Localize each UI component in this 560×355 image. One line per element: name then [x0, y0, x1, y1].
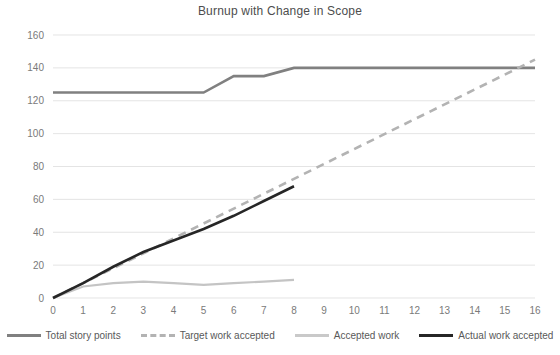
- x-tick-label: 10: [349, 305, 361, 316]
- legend-swatch-icon: [141, 334, 175, 337]
- y-tick-label: 140: [27, 62, 44, 73]
- x-tick-label: 11: [379, 305, 390, 316]
- x-tick-label: 6: [231, 305, 237, 316]
- x-tick-label: 3: [141, 305, 147, 316]
- x-tick-label: 0: [50, 305, 56, 316]
- legend-item[interactable]: Actual work accepted: [419, 330, 553, 341]
- series-line: [53, 68, 535, 93]
- x-tick-label: 7: [261, 305, 267, 316]
- legend-label: Actual work accepted: [458, 330, 553, 341]
- y-tick-label: 0: [38, 293, 44, 304]
- y-tick-label: 20: [33, 260, 45, 271]
- legend-label: Target work accepted: [180, 330, 275, 341]
- legend-item[interactable]: Target work accepted: [141, 330, 275, 341]
- x-tick-label: 4: [171, 305, 177, 316]
- legend-item[interactable]: Total story points: [7, 330, 121, 341]
- y-tick-label: 40: [33, 227, 45, 238]
- x-axis-tick-labels: 012345678910111213141516: [50, 305, 541, 316]
- gridlines-group: [53, 35, 535, 298]
- x-tick-label: 16: [529, 305, 541, 316]
- y-tick-label: 80: [33, 161, 45, 172]
- legend-label: Total story points: [46, 330, 121, 341]
- y-tick-label: 60: [33, 194, 45, 205]
- legend-item[interactable]: Accepted work: [295, 330, 400, 341]
- burnup-chart: Burnup with Change in Scope 020406080100…: [0, 0, 560, 355]
- x-tick-label: 9: [321, 305, 327, 316]
- x-tick-label: 14: [469, 305, 481, 316]
- legend-swatch-icon: [295, 334, 329, 337]
- data-series-group: [53, 60, 535, 298]
- y-tick-label: 100: [27, 128, 44, 139]
- y-tick-label: 160: [27, 30, 44, 41]
- x-tick-label: 12: [409, 305, 421, 316]
- y-axis-tick-labels: 020406080100120140160: [27, 30, 44, 304]
- y-tick-label: 120: [27, 95, 44, 106]
- legend-swatch-icon: [419, 334, 453, 337]
- x-tick-label: 1: [80, 305, 86, 316]
- legend-label: Accepted work: [334, 330, 400, 341]
- series-line: [53, 280, 294, 298]
- chart-legend: Total story pointsTarget work acceptedAc…: [0, 330, 560, 341]
- x-tick-label: 5: [201, 305, 207, 316]
- x-tick-label: 2: [110, 305, 116, 316]
- x-tick-label: 8: [291, 305, 297, 316]
- x-tick-label: 15: [499, 305, 511, 316]
- x-tick-label: 13: [439, 305, 451, 316]
- legend-swatch-icon: [7, 334, 41, 337]
- chart-plot-area: 020406080100120140160 012345678910111213…: [0, 0, 560, 330]
